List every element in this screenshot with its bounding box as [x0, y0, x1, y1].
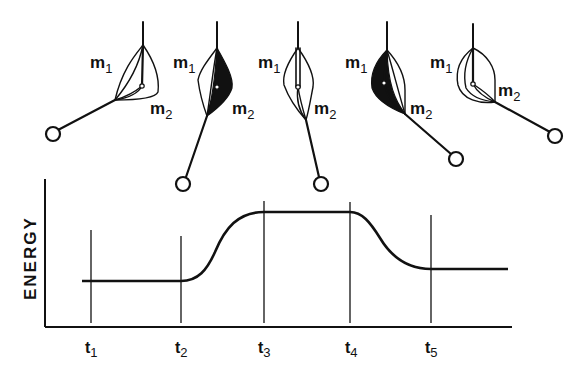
pendulum-2-shaded-region: [207, 48, 232, 116]
tick-label-t2: t2: [175, 339, 188, 360]
pendulum-4: [372, 22, 463, 166]
pendulum-5-m2-label: m2: [498, 81, 520, 104]
pendulum-3-joint: [296, 85, 300, 89]
pendulum-2-m2-label: m2: [232, 99, 254, 122]
energy-curve: [82, 212, 508, 281]
pendulum-1: [46, 22, 158, 141]
pendulum-1-m1-label: m1: [90, 53, 112, 76]
tick-label-t5: t5: [425, 339, 438, 360]
pendulum-4-bob: [449, 152, 463, 166]
pendulum-5-bob: [548, 129, 562, 143]
pendulum-2-joint: [215, 85, 219, 89]
pendulum-4-m2-label: m2: [410, 99, 432, 122]
pendulum-2-m1-label: m1: [173, 53, 195, 76]
pendulum-2-rod: [186, 116, 207, 177]
pendulum-1-bob: [46, 127, 60, 141]
tick-label-t3: t3: [258, 339, 271, 360]
pendulum-1-m2-label: m2: [150, 99, 172, 122]
pendulum-3-rod: [306, 120, 319, 177]
y-axis-label: ENERGY: [21, 216, 40, 300]
pendulum-4-shaded-region: [372, 50, 405, 114]
pendulum-5-joint: [471, 82, 475, 86]
tick-label-t4: t4: [345, 339, 358, 360]
pendulum-3-bob: [314, 177, 328, 191]
pendulum-5-rod: [495, 102, 550, 132]
pendulum-3-m1-label: m1: [258, 53, 280, 76]
pendulum-2: [176, 22, 232, 191]
pendulum-1-rod: [58, 100, 115, 130]
energy-chart: [45, 179, 512, 327]
pendulum-1-joint: [140, 84, 144, 88]
pendulum-4-m1-label: m1: [345, 53, 367, 76]
pendulum-5-m1-label: m1: [430, 53, 452, 76]
pendulum-2-bob: [176, 177, 190, 191]
figure-canvas: m1 m2 m1 m2 m1 m2: [0, 0, 580, 371]
pendulum-4-joint: [382, 81, 386, 85]
tick-label-t1: t1: [85, 339, 98, 360]
pendulum-3-m2-label: m2: [314, 99, 336, 122]
